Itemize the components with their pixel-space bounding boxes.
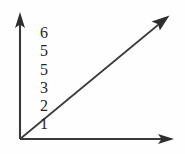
tick-label: 5 (40, 42, 48, 60)
tick-label: 3 (40, 79, 48, 97)
tick-label: 5 (40, 61, 48, 79)
figure-canvas (0, 0, 185, 154)
coordinate-axes-figure: 6 5 5 3 2 1 (0, 0, 185, 154)
tick-label: 2 (40, 97, 48, 115)
y-axis-tick-label-group: 6 5 5 3 2 1 (31, 24, 57, 134)
tick-label: 6 (40, 24, 48, 42)
tick-label: 1 (40, 115, 48, 133)
